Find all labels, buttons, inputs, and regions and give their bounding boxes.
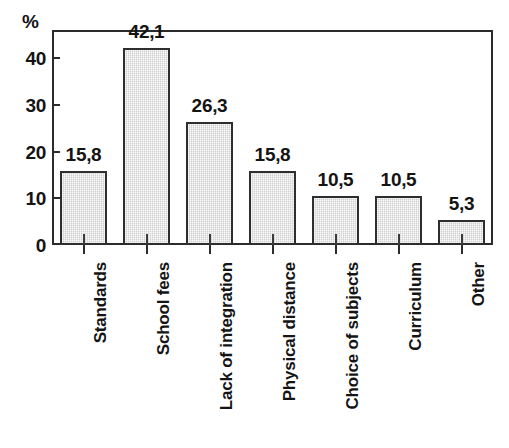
y-axis-tick-labels: 010203040: [0, 30, 46, 245]
x-axis-tick-mark: [272, 245, 274, 254]
x-axis-category-label: Standards: [92, 262, 109, 343]
x-axis-tick-mark: [146, 245, 148, 254]
bar: [123, 48, 170, 245]
x-axis-category-label: Other: [470, 262, 487, 306]
x-axis-category-label: School fees: [155, 262, 172, 355]
y-axis-tick-label: 20: [25, 142, 46, 161]
x-axis-category-label: Curriculum: [407, 262, 424, 351]
x-axis-category-label: Physical distance: [281, 262, 298, 401]
x-axis-tick-mark: [335, 245, 337, 254]
bar-value-label: 15,8: [255, 145, 291, 164]
x-axis-tick-mark-inner: [335, 234, 337, 245]
x-axis-category-label: Choice of subjects: [344, 262, 361, 410]
bar-value-label: 10,5: [318, 170, 354, 189]
bar-value-label: 26,3: [192, 96, 228, 115]
bar-value-label: 5,3: [449, 194, 475, 213]
x-axis-tick-mark: [83, 245, 85, 254]
y-axis-tick-label: 40: [25, 49, 46, 68]
x-axis-tick-mark-inner: [146, 234, 148, 245]
bar: [186, 122, 233, 245]
x-axis-tick-mark-inner: [209, 234, 211, 245]
bar-value-label: 15,8: [66, 145, 102, 164]
x-axis-tick-mark-inner: [83, 234, 85, 245]
y-axis-unit-label: %: [22, 12, 39, 31]
x-axis-tick-mark: [461, 245, 463, 254]
x-axis-tick-mark-inner: [461, 234, 463, 245]
plot-area: [52, 30, 493, 245]
y-axis-tick-label: 30: [25, 95, 46, 114]
x-axis-tick-mark-inner: [272, 234, 274, 245]
bar-chart: % 010203040 15,842,126,315,810,510,55,3 …: [0, 0, 509, 448]
bar-value-label: 42,1: [129, 22, 165, 41]
x-axis-category-label: Lack of integration: [218, 262, 235, 410]
x-axis-tick-mark: [209, 245, 211, 254]
x-axis-tick-mark: [398, 245, 400, 254]
bar-value-label: 10,5: [381, 170, 417, 189]
y-axis-tick-label: 10: [25, 189, 46, 208]
x-axis-tick-mark-inner: [398, 234, 400, 245]
y-axis-tick-label: 0: [36, 236, 46, 255]
